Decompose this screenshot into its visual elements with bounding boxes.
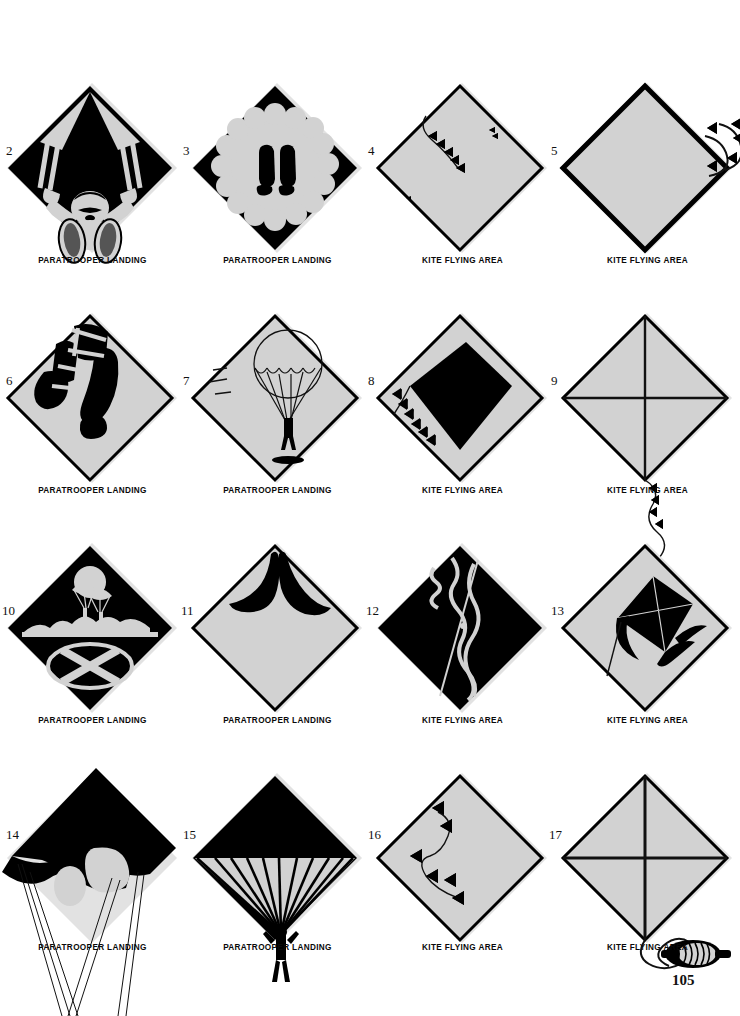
figure-cell: 2 PARATROOPER LANDING bbox=[0, 78, 185, 248]
figure-number: 12 bbox=[366, 604, 379, 617]
sign-graphic: 12 bbox=[370, 538, 555, 708]
figure-number: 2 bbox=[6, 144, 13, 157]
figure-number: 8 bbox=[368, 374, 375, 387]
sign-graphic: 4 bbox=[370, 78, 555, 248]
figure-number: 16 bbox=[368, 828, 381, 841]
figure-cell: 13 KITE FLYING AREA bbox=[555, 538, 740, 708]
figure-number: 11 bbox=[181, 604, 194, 617]
kite-string-bowties-icon bbox=[370, 78, 555, 253]
ram-air-canopy-icon bbox=[0, 768, 185, 1016]
figure-caption: PARATROOPER LANDING bbox=[185, 486, 370, 495]
sign-graphic: 2 bbox=[0, 78, 185, 248]
figure-caption: KITE FLYING AREA bbox=[370, 943, 555, 952]
black-kite-with-tail-icon bbox=[370, 308, 555, 483]
kite-with-spool-icon bbox=[555, 768, 740, 998]
figure-cell: 8 KITE FLYING AREA bbox=[370, 308, 555, 478]
figure-number: 9 bbox=[551, 374, 558, 387]
parachutist-descending-icon bbox=[185, 308, 370, 483]
figure-cell: 15 PARATROOPER LANDING bbox=[185, 768, 370, 938]
figure-caption: KITE FLYING AREA bbox=[555, 256, 740, 265]
round-canopy-gores-icon bbox=[185, 768, 370, 1016]
figure-cell: 11 PARATROOPER LANDING bbox=[185, 538, 370, 708]
boots-silhouette-icon bbox=[185, 538, 370, 713]
parachutists-over-landing-zone-icon bbox=[0, 538, 185, 713]
figure-caption: PARATROOPER LANDING bbox=[185, 716, 370, 725]
sign-graphic: 6 bbox=[0, 308, 185, 478]
figure-cell: 14 PARATROOPER LANDING bbox=[0, 768, 185, 938]
bowtie-tail-trail-icon bbox=[370, 768, 555, 968]
figure-cell: 5 KITE FLYING AREA bbox=[555, 78, 740, 248]
page-number: 105 bbox=[672, 972, 695, 989]
canopy-scalloped-with-boots-icon bbox=[185, 78, 370, 253]
sign-graphic: 17 bbox=[555, 768, 740, 938]
sign-graphic: 10 bbox=[0, 538, 185, 708]
figure-cell: 12 KITE FLYING AREA bbox=[370, 538, 555, 708]
figure-cell: 6 PARATROOPER LANDING bbox=[0, 308, 185, 478]
kite-frame-with-string-icon bbox=[555, 308, 740, 538]
kite-with-streamers-icon bbox=[555, 538, 740, 713]
figure-caption: PARATROOPER LANDING bbox=[0, 256, 185, 265]
paratrooper-legs-harness-icon bbox=[0, 308, 185, 483]
figure-number: 10 bbox=[2, 604, 15, 617]
figure-cell: 9 KITE FLYING AREA bbox=[555, 308, 740, 478]
figure-caption: PARATROOPER LANDING bbox=[185, 256, 370, 265]
figure-number: 13 bbox=[551, 604, 564, 617]
figure-number: 17 bbox=[549, 828, 562, 841]
figure-cell: 10 PARATROOPER LANDING bbox=[0, 538, 185, 708]
figure-caption: PARATROOPER LANDING bbox=[0, 716, 185, 725]
figure-number: 5 bbox=[551, 144, 558, 157]
figure-caption: PARATROOPER LANDING bbox=[0, 486, 185, 495]
figure-caption: KITE FLYING AREA bbox=[370, 716, 555, 725]
figure-caption: PARATROOPER LANDING bbox=[0, 943, 185, 952]
figure-caption: KITE FLYING AREA bbox=[370, 256, 555, 265]
figure-cell: 4 KITE FLYING AREA bbox=[370, 78, 555, 248]
sign-graphic: 15 bbox=[185, 768, 370, 938]
sign-graphic: 8 bbox=[370, 308, 555, 478]
sign-graphic: 7 bbox=[185, 308, 370, 478]
figure-number: 14 bbox=[6, 828, 19, 841]
figure-cell: 16 KITE FLYING AREA bbox=[370, 768, 555, 938]
figure-cell: 17 KITE FLYING AREA bbox=[555, 768, 740, 938]
sign-graphic: 3 bbox=[185, 78, 370, 248]
figure-caption: KITE FLYING AREA bbox=[370, 486, 555, 495]
figure-number: 4 bbox=[368, 144, 375, 157]
sign-graphic: 16 bbox=[370, 768, 555, 938]
figure-number: 6 bbox=[6, 374, 13, 387]
figure-caption: PARATROOPER LANDING bbox=[185, 943, 370, 952]
kite-tail-overflow-icon bbox=[555, 78, 740, 253]
figure-caption: KITE FLYING AREA bbox=[555, 716, 740, 725]
figure-cell: 3 PARATROOPER LANDING bbox=[185, 78, 370, 248]
sign-graphic: 9 bbox=[555, 308, 740, 478]
sign-graphic: 13 bbox=[555, 538, 740, 708]
sign-graphic: 5 bbox=[555, 78, 740, 248]
paratrooper-child-canopy-icon bbox=[0, 78, 185, 253]
sign-graphic: 14 bbox=[0, 768, 185, 938]
figure-caption: KITE FLYING AREA bbox=[555, 486, 740, 495]
figure-cell: 7 PARATROOPER LANDING bbox=[185, 308, 370, 478]
figure-number: 15 bbox=[183, 828, 196, 841]
figure-number: 3 bbox=[183, 144, 190, 157]
kite-string-night-icon bbox=[370, 538, 555, 713]
figure-caption: KITE FLYING AREA bbox=[555, 943, 740, 952]
figure-number: 7 bbox=[183, 374, 190, 387]
sign-graphic: 11 bbox=[185, 538, 370, 708]
